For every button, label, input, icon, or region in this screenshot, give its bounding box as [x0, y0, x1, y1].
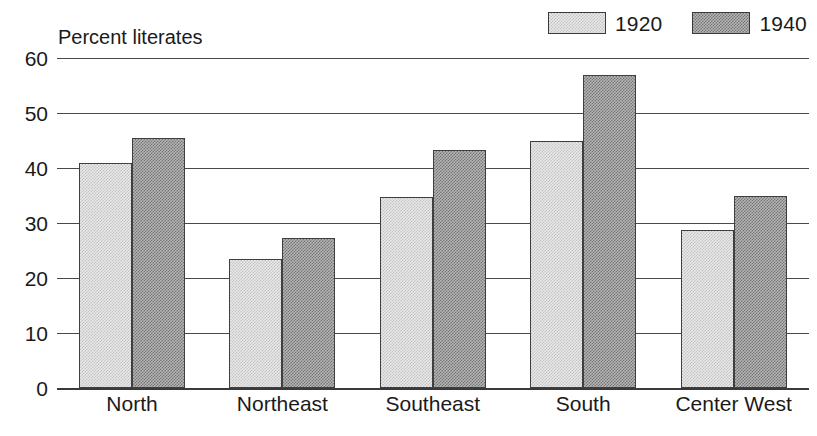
- x-tick-label-northeast: Northeast: [237, 392, 328, 415]
- y-tick-label-0: 0: [36, 378, 48, 399]
- chart-legend: 1920 1940: [548, 12, 807, 34]
- legend-label-1920: 1920: [615, 13, 663, 34]
- legend-entry-1920: 1920: [548, 12, 663, 34]
- x-tick-label-southeast: Southeast: [386, 392, 481, 415]
- y-tick-label-10: 10: [25, 323, 48, 344]
- bar-south-1940: [583, 75, 636, 389]
- bar-center-west-1920: [681, 230, 734, 388]
- legend-entry-1940: 1940: [692, 12, 807, 34]
- bars-group: [57, 58, 809, 388]
- bar-north-1940: [132, 138, 185, 388]
- bar-north-1920: [79, 163, 132, 389]
- legend-swatch-1920-icon: [548, 12, 606, 34]
- x-axis-labels: NorthNortheastSoutheastSouthCenter West: [57, 392, 809, 432]
- y-tick-label-50: 50: [25, 103, 48, 124]
- x-tick-label-center-west: Center West: [675, 392, 791, 415]
- legend-label-1940: 1940: [759, 13, 807, 34]
- bar-center-west-1940: [734, 196, 787, 389]
- plot-area: 0102030405060: [57, 58, 809, 388]
- bar-northeast-1920: [229, 259, 282, 388]
- legend-swatch-1940-icon: [692, 12, 750, 34]
- chart-title: Percent literates: [58, 27, 203, 47]
- y-tick-label-30: 30: [25, 213, 48, 234]
- y-tick-label-40: 40: [25, 158, 48, 179]
- chart-figure: 1920 1940 Percent literates 010203040506…: [0, 0, 817, 436]
- x-tick-label-north: North: [106, 392, 157, 415]
- x-axis-baseline: [57, 388, 809, 390]
- y-tick-label-20: 20: [25, 268, 48, 289]
- bar-southeast-1920: [380, 197, 433, 388]
- y-tick-label-60: 60: [25, 48, 48, 69]
- bar-south-1920: [530, 141, 583, 389]
- bar-southeast-1940: [433, 150, 486, 388]
- x-tick-label-south: South: [556, 392, 611, 415]
- bar-northeast-1940: [282, 238, 335, 388]
